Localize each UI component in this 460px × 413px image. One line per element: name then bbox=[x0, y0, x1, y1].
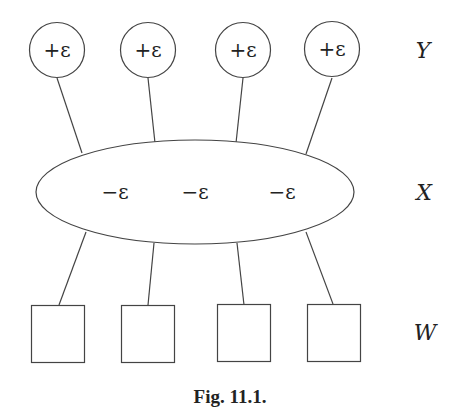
node-w4 bbox=[308, 305, 361, 362]
row-label-x: X bbox=[416, 180, 432, 205]
node-w1 bbox=[32, 306, 85, 363]
edge-x-w3 bbox=[237, 243, 244, 305]
node-y4-label: +ε bbox=[318, 37, 345, 61]
row-label-w: W bbox=[414, 320, 437, 345]
edge-y1-x bbox=[57, 78, 82, 153]
row-label-y: Y bbox=[416, 38, 431, 63]
node-y3-label: +ε bbox=[229, 38, 256, 62]
figure-caption: Fig. 11.1. bbox=[0, 386, 460, 408]
edge-x-w2 bbox=[148, 243, 154, 305]
node-x-label-1: −ε bbox=[101, 180, 128, 204]
edge-x-w1 bbox=[59, 232, 86, 305]
edge-y3-x bbox=[236, 78, 243, 143]
edge-y2-x bbox=[148, 78, 155, 143]
node-w3 bbox=[218, 305, 271, 362]
node-x-label-2: −ε bbox=[181, 180, 208, 204]
node-y1-label: +ε bbox=[43, 38, 70, 62]
node-x-label-3: −ε bbox=[268, 180, 295, 204]
edge-y4-x bbox=[306, 78, 332, 154]
node-y2-label: +ε bbox=[134, 38, 161, 62]
edge-x-w4 bbox=[306, 232, 333, 304]
node-w2 bbox=[122, 306, 175, 363]
